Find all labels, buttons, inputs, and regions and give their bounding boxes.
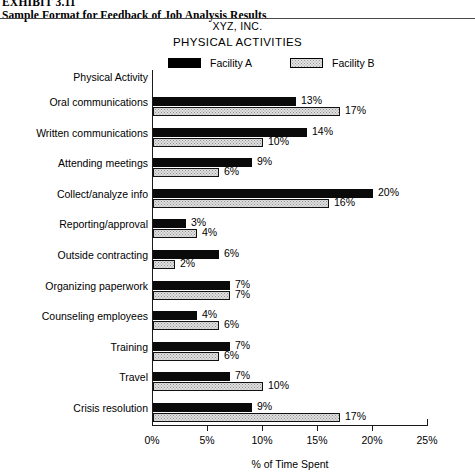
category-label: Outside contracting: [58, 249, 148, 261]
category-label: Training: [110, 341, 148, 353]
bar-value-facility-a: 9%: [257, 157, 272, 166]
bar-facility-b: [153, 413, 340, 422]
bar-facility-b: [153, 321, 219, 330]
bar-value-facility-b: 17%: [345, 412, 366, 421]
x-axis-tick-label: 20%: [361, 434, 382, 446]
bar-value-facility-a: 4%: [202, 310, 217, 319]
x-axis-tick-label: 15%: [306, 434, 327, 446]
bar-value-facility-b: 7%: [235, 290, 250, 299]
bar-value-facility-b: 10%: [268, 137, 289, 146]
bar-facility-b: [153, 199, 329, 208]
bar-facility-b: [153, 352, 219, 361]
bar-facility-a: [153, 219, 186, 228]
bar-facility-b: [153, 260, 175, 269]
bar-facility-b: [153, 138, 263, 147]
bar-value-facility-a: 7%: [235, 371, 250, 380]
x-axis-tick: [317, 425, 318, 431]
category-label: Attending meetings: [58, 157, 148, 169]
category-label: Written communications: [36, 127, 148, 139]
x-axis-title: % of Time Spent: [152, 458, 428, 470]
bar-facility-b: [153, 382, 263, 391]
bar-value-facility-b: 6%: [224, 167, 239, 176]
bar-value-facility-b: 16%: [334, 198, 355, 207]
bar-value-facility-b: 4%: [202, 228, 217, 237]
bar-value-facility-b: 17%: [345, 106, 366, 115]
bar-value-facility-b: 6%: [224, 320, 239, 329]
bar-facility-b: [153, 107, 340, 116]
category-label: Oral communications: [49, 96, 148, 108]
category-label: Organizing paperwork: [45, 280, 148, 292]
x-axis-tick-label: 0%: [144, 434, 159, 446]
x-axis-tick-label: 5%: [199, 434, 214, 446]
x-axis-tick: [262, 425, 263, 431]
x-axis-line: [152, 425, 428, 426]
category-label: Travel: [119, 371, 148, 383]
chart-plot-area: Physical Activity Oral communications13%…: [0, 0, 475, 474]
bar-value-facility-a: 14%: [312, 127, 333, 136]
bar-facility-a: [153, 342, 230, 351]
bar-value-facility-a: 20%: [378, 188, 399, 197]
x-axis-tick-label: 25%: [416, 434, 437, 446]
bar-value-facility-b: 10%: [268, 381, 289, 390]
bar-facility-a: [153, 97, 296, 106]
bar-facility-a: [153, 372, 230, 381]
bar-value-facility-b: 6%: [224, 351, 239, 360]
x-axis-tick-label: 10%: [251, 434, 272, 446]
bar-facility-b: [153, 291, 230, 300]
bar-value-facility-a: 9%: [257, 402, 272, 411]
bar-facility-b: [153, 168, 219, 177]
category-label: Reporting/approval: [59, 218, 148, 230]
bar-value-facility-b: 2%: [180, 259, 195, 268]
x-axis-end-cap-right: [427, 419, 428, 425]
bar-value-facility-a: 6%: [224, 249, 239, 258]
bar-value-facility-a: 13%: [301, 96, 322, 105]
x-axis-end-cap-left: [152, 419, 153, 425]
category-header-label: Physical Activity: [73, 71, 148, 83]
bar-facility-b: [153, 229, 197, 238]
x-axis-tick: [372, 425, 373, 431]
bar-facility-a: [153, 311, 197, 320]
bar-facility-a: [153, 281, 230, 290]
category-label: Crisis resolution: [73, 402, 148, 414]
bar-facility-a: [153, 403, 252, 412]
x-axis-tick: [207, 425, 208, 431]
category-label: Collect/analyze info: [57, 188, 148, 200]
category-label: Counseling employees: [42, 310, 148, 322]
